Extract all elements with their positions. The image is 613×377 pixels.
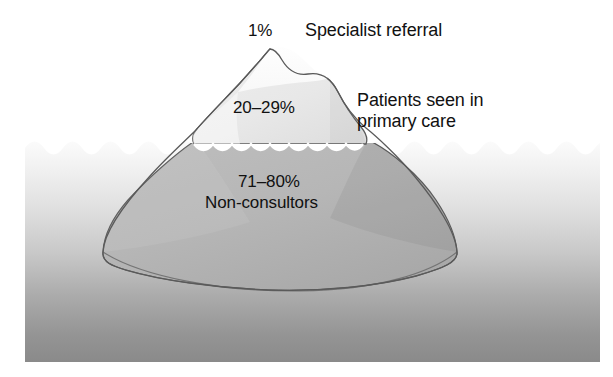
label-primary-care-line1: Patients seen in	[357, 90, 483, 110]
label-non-consultors-percent: 71–80%	[238, 172, 300, 192]
waterline-foam	[194, 144, 366, 150]
label-primary-care-percent: 20–29%	[233, 98, 295, 118]
label-primary-care-text: Patients seen inprimary care	[357, 90, 483, 132]
iceberg-illustration	[0, 0, 613, 377]
label-non-consultors-text: Non-consultors	[205, 193, 318, 213]
label-specialist-referral-text: Specialist referral	[305, 20, 442, 41]
iceberg-above-water-mass	[193, 47, 367, 144]
label-primary-care-line2: primary care	[357, 111, 456, 131]
label-specialist-referral-percent: 1%	[248, 21, 272, 41]
iceberg-figure: 1% Specialist referral 20–29% Patients s…	[0, 0, 613, 377]
